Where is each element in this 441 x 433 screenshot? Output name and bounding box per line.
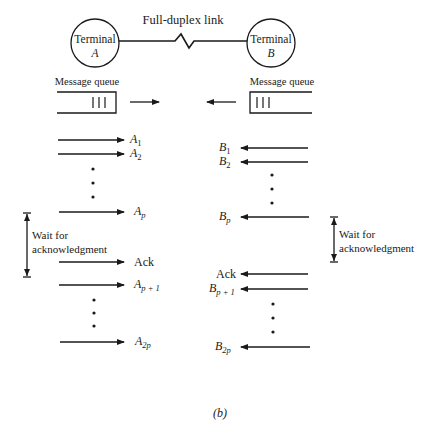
msg-ap: Ap: [133, 204, 146, 220]
queue-a-label: Message queue: [55, 76, 120, 87]
msg-ack-b: Ack: [216, 267, 236, 281]
queue-b-label: Message queue: [250, 76, 315, 87]
msg-bp1: Bp + 1: [209, 281, 235, 297]
diagram-canvas: Full-duplex link Terminal A Terminal B M…: [0, 0, 441, 433]
link-label: Full-duplex link: [143, 13, 225, 27]
full-duplex-link: Full-duplex link: [119, 13, 247, 48]
wait-bracket-left: Wait for acknowledgment: [23, 213, 107, 277]
figure-caption: (b): [213, 406, 227, 420]
terminal-b: Terminal B: [247, 19, 295, 67]
msg-bp: Bp: [219, 209, 231, 225]
terminal-b-name: B: [267, 47, 274, 59]
wait-left-line1: Wait for: [32, 229, 68, 241]
msg-ack-a: Ack: [134, 255, 154, 269]
terminal-a-label: Terminal: [74, 33, 115, 45]
terminal-a: Terminal A: [71, 19, 119, 67]
wait-right-line2: acknowledgment: [339, 242, 414, 254]
terminal-a-transmissions: A1 A2 Ap Ack Ap + 1 A2p: [58, 132, 160, 350]
wait-bracket-right: Wait for acknowledgment: [330, 217, 414, 262]
terminal-a-name: A: [90, 47, 99, 59]
terminal-b-label: Terminal: [250, 33, 291, 45]
msg-a2: A2: [129, 146, 142, 162]
message-queue-b: Message queue: [207, 76, 315, 113]
msg-b2p: B2p: [215, 339, 231, 355]
wait-left-line2: acknowledgment: [32, 243, 107, 255]
wait-right-line1: Wait for: [339, 228, 375, 240]
msg-ap1: Ap + 1: [133, 277, 160, 293]
msg-a2p: A2p: [134, 334, 151, 350]
terminal-b-transmissions: B1 B2 Bp Ack Bp + 1 B2p: [209, 140, 310, 355]
message-queue-a: Message queue: [55, 76, 159, 113]
msg-b2: B2: [219, 154, 231, 170]
